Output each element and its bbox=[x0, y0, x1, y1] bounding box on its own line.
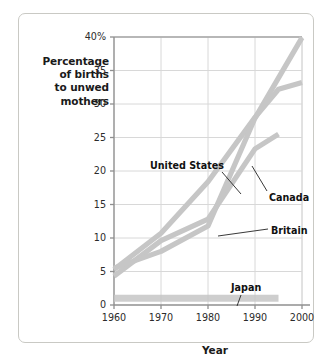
x-axis-label: Year bbox=[115, 344, 315, 356]
series-label-japan: Japan bbox=[231, 282, 261, 293]
x-tick-label: 2000 bbox=[280, 312, 324, 323]
series-label-united-states: United States bbox=[150, 160, 224, 171]
y-tick-label: 35 bbox=[72, 65, 106, 76]
leader-line-canada bbox=[252, 166, 267, 191]
y-tick-label: 30 bbox=[72, 98, 106, 109]
y-tick-label: 10 bbox=[72, 232, 106, 243]
leader-line-britain bbox=[218, 229, 268, 236]
x-tick-label: 1960 bbox=[92, 312, 136, 323]
series-label-canada: Canada bbox=[269, 192, 309, 203]
series-label-britain: Britain bbox=[271, 225, 308, 236]
figure-frame: Percentage of births to unwed mothers 05… bbox=[18, 13, 314, 343]
x-tick-label: 1970 bbox=[139, 312, 183, 323]
series-line-canada bbox=[114, 134, 279, 276]
y-tick-label: 5 bbox=[72, 266, 106, 277]
y-tick-label: 20 bbox=[72, 165, 106, 176]
x-tick-label: 1980 bbox=[186, 312, 230, 323]
y-tick-label: 40% bbox=[72, 31, 106, 42]
y-tick-label: 15 bbox=[72, 199, 106, 210]
x-tick-label: 1990 bbox=[233, 312, 277, 323]
y-tick-label: 25 bbox=[72, 132, 106, 143]
chart-canvas bbox=[19, 14, 315, 344]
y-tick-label: 0 bbox=[72, 299, 106, 310]
